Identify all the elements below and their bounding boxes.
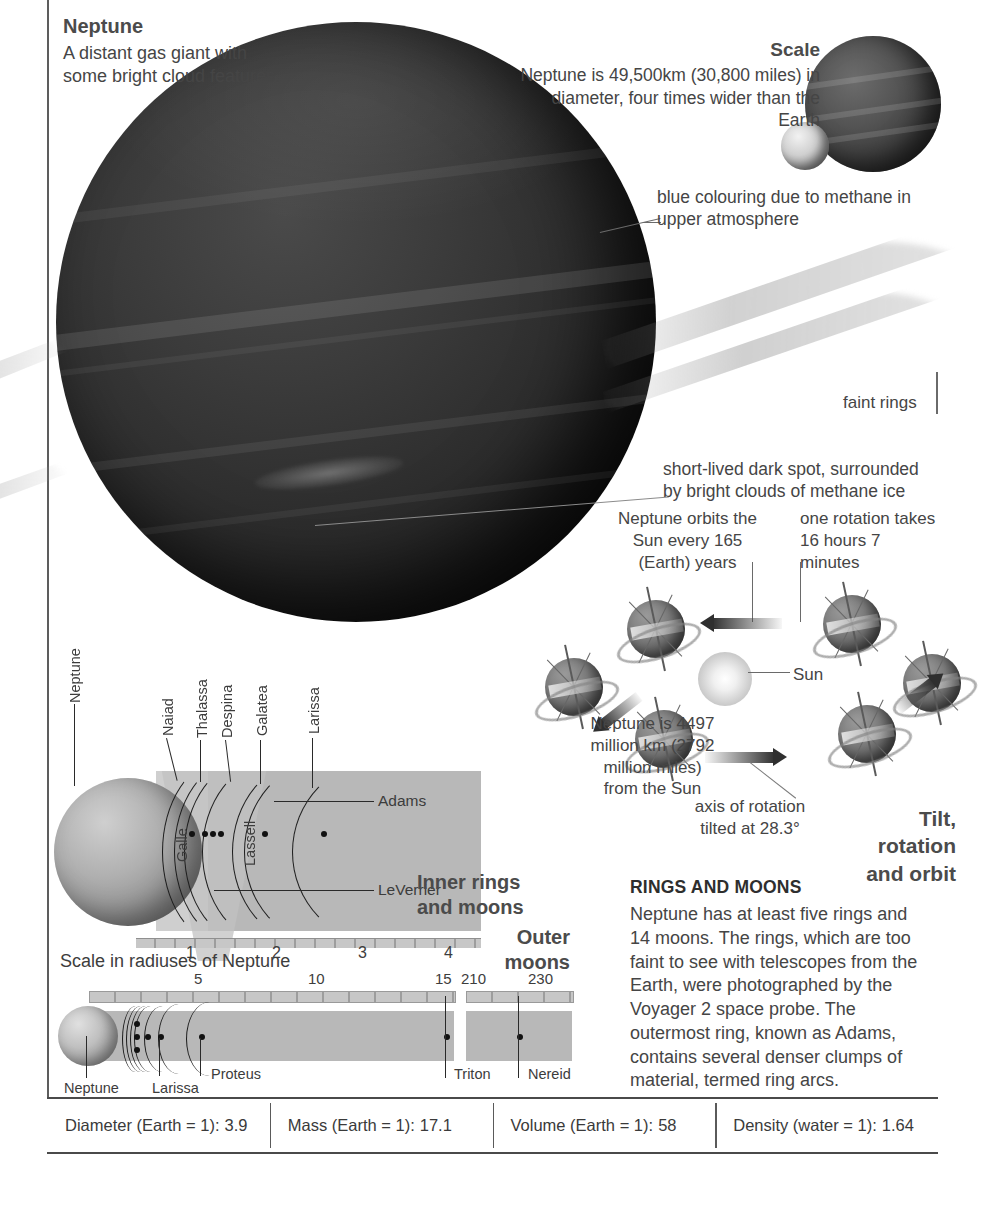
scale-block: Scale Neptune is 49,500km (30,800 miles)…	[520, 38, 820, 131]
outer-neptune-leader	[86, 1036, 87, 1078]
scale-text: Neptune is 49,500km (30,800 miles) in di…	[520, 65, 820, 130]
sun-sphere	[698, 652, 752, 706]
fact-cell-volume: Volume (Earth = 1): 58	[493, 1099, 716, 1152]
outer-moons-diagram: 5 10 15 210 230 Neptune Larissa Proteus …	[56, 958, 576, 1098]
outer-tick-230: 230	[528, 970, 553, 987]
left-margin-rule	[47, 0, 49, 1098]
outer-tick-10: 10	[308, 970, 325, 987]
title-block: Neptune A distant gas giant with some br…	[63, 14, 293, 88]
inner-moon-label-galatea: Galatea	[254, 660, 270, 736]
outer-neptune-sphere	[58, 1006, 118, 1066]
axis-leader-line	[750, 762, 797, 799]
outer-tick-5: 5	[194, 970, 202, 987]
outer-tick-15: 15	[435, 970, 452, 987]
orbit-planet-5	[838, 705, 896, 763]
outer-tick-210: 210	[461, 970, 486, 987]
fact-value-diameter: 3.9	[225, 1116, 248, 1135]
orbit-leader-line	[752, 562, 753, 622]
orbit-planet-1	[627, 600, 685, 658]
sun-label: Sun	[793, 664, 823, 686]
inner-neptune-leader	[74, 704, 75, 786]
fact-value-mass: 17.1	[420, 1116, 452, 1135]
inner-moon-label-thalassa: Thalassa	[194, 658, 210, 738]
outer-label-proteus: Proteus	[211, 1066, 261, 1082]
outer-triton-leader	[445, 996, 446, 1078]
rotation-leader-line	[800, 562, 801, 622]
fact-cell-mass: Mass (Earth = 1): 17.1	[270, 1099, 493, 1152]
fact-label-density: Density (water = 1):	[733, 1116, 877, 1135]
outer-scale-axis-main	[89, 991, 456, 1003]
rotation-period-label: one rotation takes 16 hours 7 minutes	[800, 508, 940, 573]
fact-value-density: 1.64	[882, 1116, 914, 1135]
outer-scale-axis-far	[466, 991, 574, 1003]
outer-nereid-leader	[518, 996, 519, 1078]
tilt-rotation-orbit-title: Tilt, rotation and orbit	[836, 805, 956, 887]
fact-label-volume: Volume (Earth = 1):	[511, 1116, 654, 1135]
ring-label-lassell: Lassell	[242, 804, 258, 866]
methane-callout: blue colouring due to methane in upper a…	[657, 186, 927, 231]
page-subtitle: A distant gas giant with some bright clo…	[63, 42, 293, 88]
adams-leader	[274, 801, 374, 802]
outer-label-nereid: Nereid	[528, 1066, 571, 1082]
orbit-arrow-top	[712, 618, 782, 629]
dark-spot-feature	[253, 450, 405, 497]
outer-label-triton: Triton	[454, 1066, 491, 1082]
orbit-planet-6	[545, 658, 603, 716]
faint-rings-rule	[936, 372, 938, 414]
facts-table: Diameter (Earth = 1): 3.9 Mass (Earth = …	[47, 1099, 938, 1152]
axis-tilt-label: axis of rotation tilted at 28.3°	[675, 796, 825, 840]
inner-rings-diagram: Neptune Naiad Thalassa Despina Galatea L…	[56, 668, 476, 968]
rings-and-moons-heading: RINGS AND MOONS	[630, 876, 930, 899]
inner-rings-title: Inner rings and moons	[417, 870, 547, 920]
inner-moon-label-naiad: Naiad	[160, 670, 176, 736]
faint-rings-callout: faint rings	[843, 392, 917, 414]
outer-label-neptune: Neptune	[64, 1080, 119, 1096]
sun-leader-line	[748, 672, 790, 673]
fact-value-volume: 58	[658, 1116, 676, 1135]
ring-label-galle: Galle	[174, 806, 190, 862]
ring-label-adams: Adams	[378, 792, 426, 810]
rings-and-moons-text: Neptune has at least five rings and 14 m…	[630, 904, 917, 1090]
leverrier-leader	[214, 890, 374, 891]
rings-and-moons-block: RINGS AND MOONS Neptune has at least fiv…	[630, 876, 930, 1093]
scale-heading: Scale	[520, 38, 820, 62]
fact-cell-diameter: Diameter (Earth = 1): 3.9	[47, 1099, 270, 1152]
fact-label-diameter: Diameter (Earth = 1):	[65, 1116, 220, 1135]
fact-cell-density: Density (water = 1): 1.64	[715, 1099, 938, 1152]
distance-from-sun-label: Neptune is 4497 million km (2792 million…	[585, 713, 720, 800]
outer-label-larissa: Larissa	[152, 1080, 199, 1096]
orbit-period-label: Neptune orbits the Sun every 165 (Earth)…	[610, 508, 765, 573]
page-title: Neptune	[63, 14, 293, 40]
outer-proteus-leader	[200, 1038, 201, 1076]
dark-spot-callout: short-lived dark spot, surrounded by bri…	[663, 458, 923, 503]
fact-label-mass: Mass (Earth = 1):	[288, 1116, 415, 1135]
orbit-planet-2	[823, 595, 881, 653]
table-bottom-rule	[47, 1152, 938, 1154]
inner-moon-label-larissa: Larissa	[306, 662, 322, 734]
inner-moon-label-despina: Despina	[219, 660, 235, 738]
inner-label-neptune: Neptune	[67, 633, 83, 703]
outer-larissa-leader	[159, 1038, 160, 1076]
